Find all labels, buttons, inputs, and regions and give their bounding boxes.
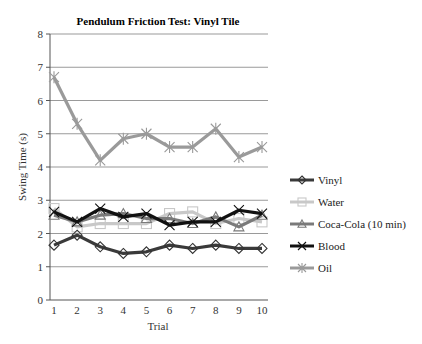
series-line [54,235,262,253]
x-tick-label: 4 [121,304,127,316]
y-tick-label: 2 [38,228,44,240]
star-marker [95,154,105,166]
legend-label: Vinyl [318,174,342,186]
y-axis-label: Swing Time (s) [16,133,29,201]
legend: VinylWaterCoca-Cola (10 min)BloodOil [290,174,406,274]
y-tick-label: 7 [38,61,44,73]
x-axis-label: Trial [148,320,169,332]
series-line [54,77,262,160]
x-tick-label: 8 [213,304,219,316]
star-marker [211,123,221,135]
x-tick-label: 10 [257,304,269,316]
legend-label: Oil [318,262,332,274]
legend-item: Coca-Cola (10 min) [290,218,406,231]
legend-item: Vinyl [290,174,342,186]
x-tick-label: 3 [97,304,103,316]
x-tick-label: 9 [236,304,242,316]
x-axis-ticks: 12345678910 [51,304,268,316]
series-oil [49,71,267,166]
x-tick-label: 1 [51,304,57,316]
legend-item: Water [290,196,344,208]
line-chart: Pendulum Friction Test: Vinyl Tile 01234… [0,0,422,344]
y-tick-label: 4 [38,161,44,173]
legend-item: Oil [290,262,332,274]
legend-label: Coca-Cola (10 min) [318,218,406,231]
chart-title: Pendulum Friction Test: Vinyl Tile [77,15,240,27]
x-tick-label: 7 [190,304,196,316]
legend-item: Blood [290,240,345,252]
series-vinyl [49,230,267,258]
x-tick-label: 6 [167,304,173,316]
legend-label: Blood [318,240,345,252]
y-axis-ticks: 012345678 [38,28,51,306]
y-tick-label: 1 [38,261,44,273]
x-tick-label: 5 [144,304,150,316]
y-tick-label: 3 [38,194,44,206]
y-tick-label: 8 [38,28,44,40]
y-tick-label: 6 [38,95,44,107]
y-tick-label: 0 [38,294,44,306]
star-marker [72,118,82,130]
legend-label: Water [318,196,344,208]
x-tick-label: 2 [74,304,80,316]
y-tick-label: 5 [38,128,44,140]
series-lines [49,71,267,258]
